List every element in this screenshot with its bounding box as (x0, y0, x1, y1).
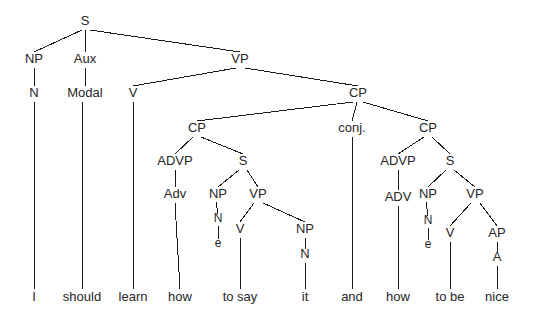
tree-node-nit: N (300, 246, 309, 261)
tree-node-s: S (81, 13, 90, 28)
tree-branch-cptop-to-cpl (197, 102, 353, 121)
tree-branch-vp1-to-cptop (245, 68, 358, 86)
tree-branch-sl-to-npl (218, 170, 239, 187)
tree-leaf-word-10: nice (485, 289, 509, 304)
tree-leaf-word-1: I (32, 289, 36, 304)
tree-node-er: e (425, 237, 432, 251)
tree-node-advl: Adv (164, 186, 187, 201)
tree-node-np1: NP (25, 51, 43, 66)
tree-node-advr: ADV (385, 189, 412, 204)
tree-branch-s-to-np1 (34, 30, 82, 52)
tree-branch-cptop-to-conj (352, 102, 357, 121)
tree-node-ap: AP (488, 225, 505, 240)
tree-branch-cpr-to-advpr (398, 137, 424, 154)
tree-branch-vpr-to-v3 (450, 203, 471, 226)
tree-leaf-word-2: should (63, 289, 101, 304)
tree-leaf-labels: Ishouldlearnhowto sayitandhowto benice (32, 289, 509, 304)
tree-branch-sr-to-npr (428, 170, 446, 187)
tree-node-v3: V (446, 225, 455, 240)
tree-node-cpr: CP (419, 120, 437, 135)
tree-node-v1: V (129, 85, 138, 100)
tree-node-nl: N (214, 211, 223, 225)
tree-node-modal: Modal (67, 85, 103, 100)
tree-node-sl: S (239, 153, 248, 168)
tree-node-n1: N (29, 85, 38, 100)
tree-node-nr: N (424, 213, 433, 227)
tree-node-conj: conj. (338, 120, 365, 135)
tree-node-sr: S (446, 153, 455, 168)
tree-node-v2: V (236, 221, 245, 236)
tree-node-el: e (215, 236, 222, 250)
tree-node-aux: Aux (74, 51, 97, 66)
tree-branch-vp1-to-v1 (133, 68, 236, 86)
tree-branch-s-to-vp1 (90, 30, 240, 52)
tree-leaf-word-8: how (386, 289, 410, 304)
tree-node-cptop: CP (349, 85, 367, 100)
tree-branch-cpr-to-sr (432, 137, 450, 154)
tree-branch-sl-to-vpl (247, 170, 258, 187)
tree-branch-cpl-to-advpl (175, 137, 193, 154)
tree-leaf-word-3: learn (119, 289, 148, 304)
tree-branch-cpl-to-sl (201, 137, 243, 154)
tree-leaf-word-9: to be (436, 289, 465, 304)
tree-node-cpl: CP (188, 120, 206, 135)
tree-branch-sr-to-vpr (454, 170, 475, 187)
tree-branch-vpr-to-ap (480, 203, 497, 226)
tree-node-advpl: ADVP (157, 153, 192, 168)
tree-node-npit: NP (296, 221, 314, 236)
tree-leaf-word-5: to say (223, 289, 258, 304)
tree-node-vpr: VP (466, 186, 483, 201)
tree-node-a: A (493, 249, 502, 264)
syntax-tree-figure: SNPAuxVPNModalVCPCPconj.CPADVPSADVPSAdvN… (0, 0, 539, 324)
tree-node-npr: NP (419, 186, 437, 201)
tree-node-advpr: ADVP (380, 153, 415, 168)
tree-leaf-word-7: and (341, 289, 363, 304)
tree-node-vpl: VP (249, 186, 266, 201)
syntax-tree-canvas: SNPAuxVPNModalVCPCPconj.CPADVPSADVPSAdvN… (0, 0, 539, 324)
tree-node-npl: NP (209, 186, 227, 201)
tree-leaf-word-6: it (302, 289, 309, 304)
tree-leaf-line-4 (175, 203, 180, 289)
tree-branch-cptop-to-cpr (363, 102, 428, 121)
tree-leaf-word-4: how (168, 289, 192, 304)
tree-node-vp1: VP (231, 51, 248, 66)
tree-branch-vpl-to-npit (263, 203, 305, 222)
tree-branch-vpl-to-v2 (240, 203, 254, 222)
